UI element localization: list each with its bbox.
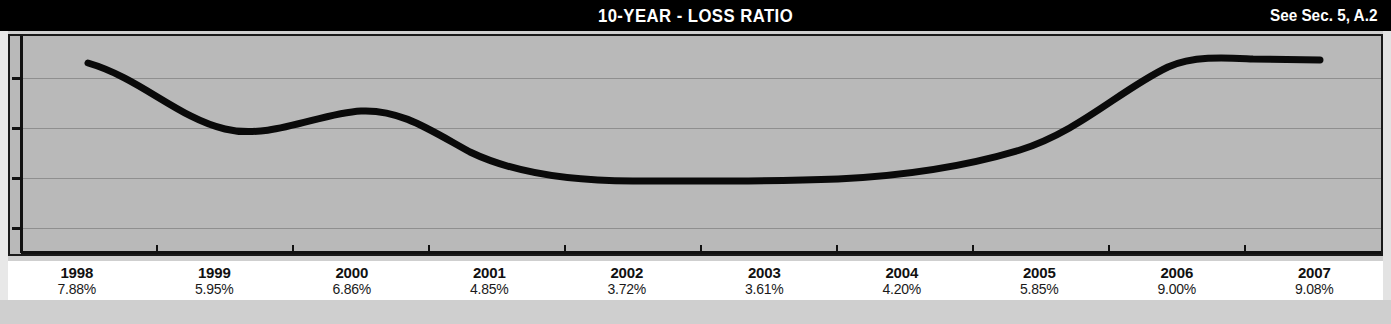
value-label: 9.00% — [1157, 282, 1196, 296]
bottom-margin-strip — [0, 300, 1391, 324]
year-label: 2005 — [1023, 265, 1056, 280]
year-column-1998: 1998 7.88% — [8, 261, 146, 300]
value-label: 5.85% — [1020, 282, 1059, 296]
year-column-2000: 2000 6.86% — [283, 261, 421, 300]
year-column-2005: 2005 5.85% — [971, 261, 1109, 300]
value-label: 4.20% — [882, 282, 921, 296]
year-label: 2006 — [1160, 265, 1193, 280]
x-axis-label-band: 1998 7.88% 1999 5.95% 2000 6.86% 2001 4.… — [8, 261, 1383, 300]
value-label: 6.86% — [332, 282, 371, 296]
value-label: 4.85% — [470, 282, 509, 296]
year-column-2007: 2007 9.08% — [1246, 261, 1384, 300]
page-title: 10-YEAR - LOSS RATIO — [83, 0, 1307, 31]
year-column-2003: 2003 3.61% — [696, 261, 834, 300]
year-label: 2000 — [335, 265, 368, 280]
year-column-2006: 2006 9.00% — [1108, 261, 1246, 300]
chart-plot-area — [8, 34, 1383, 256]
year-label: 2003 — [748, 265, 781, 280]
year-column-2004: 2004 4.20% — [833, 261, 971, 300]
value-label: 5.95% — [195, 282, 234, 296]
value-label: 3.61% — [745, 282, 784, 296]
year-label: 1998 — [60, 265, 93, 280]
year-column-1999: 1999 5.95% — [146, 261, 284, 300]
year-label: 2007 — [1298, 265, 1331, 280]
loss-ratio-chart-panel: 10-YEAR - LOSS RATIO See Sec. 5, A.2 — [0, 0, 1391, 324]
year-label: 2001 — [473, 265, 506, 280]
value-label: 9.08% — [1295, 282, 1334, 296]
header-bar: 10-YEAR - LOSS RATIO See Sec. 5, A.2 — [0, 0, 1391, 31]
year-column-2001: 2001 4.85% — [421, 261, 559, 300]
value-label: 7.88% — [57, 282, 96, 296]
year-label: 2002 — [610, 265, 643, 280]
value-label: 3.72% — [607, 282, 646, 296]
year-label: 1999 — [198, 265, 231, 280]
right-margin-strip — [1383, 31, 1391, 301]
left-margin-strip — [0, 31, 8, 301]
year-column-2002: 2002 3.72% — [558, 261, 696, 300]
section-reference: See Sec. 5, A.2 — [1270, 0, 1377, 31]
year-label: 2004 — [885, 265, 918, 280]
